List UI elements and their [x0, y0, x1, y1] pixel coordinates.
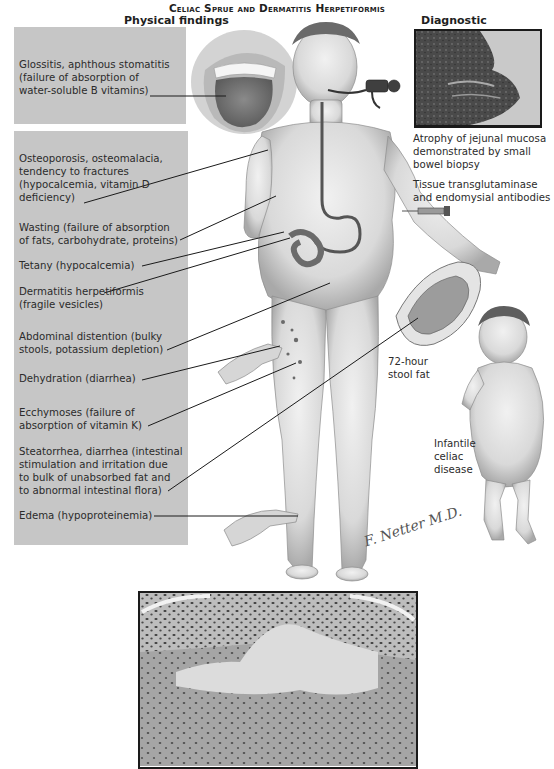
finding-edema: Edema (hypoproteinemia) [19, 509, 152, 522]
skin-biopsy-frame [138, 591, 418, 769]
mouth-tongue-illustration [191, 30, 297, 134]
stool-fat-caption: 72-hour stool fat [388, 355, 430, 381]
finding-ecchymoses: Ecchymoses (failure of absorption of vit… [19, 406, 142, 432]
finding-dermatitis-herpetiformis: Dermatitis herpetiformis (fragile vesicl… [19, 285, 144, 311]
bedpan-illustration [396, 262, 481, 345]
infantile-celiac-caption: Infantile celiac disease [434, 437, 476, 476]
jejunal-biopsy-frame [414, 29, 542, 127]
finding-wasting: Wasting (failure of absorption of fats, … [19, 221, 178, 247]
finding-glossitis: Glossitis, aphthous stomatitis (failure … [19, 58, 170, 97]
finding-abdominal-distention: Abdominal distention (bulky stools, pota… [19, 330, 163, 356]
biopsy-caption: Atrophy of jejunal mucosa demonstrated b… [413, 132, 554, 171]
finding-dehydration: Dehydration (diarrhea) [19, 372, 136, 385]
infant-figure-illustration [462, 306, 544, 544]
finding-tetany: Tetany (hypocalcemia) [19, 259, 134, 272]
antibodies-caption: Tissue transglutaminase and endomysial a… [413, 178, 554, 204]
finding-osteoporosis: Osteoporosis, osteomalacia, tendency to … [19, 152, 163, 204]
diagnostic-heading-rule [414, 126, 542, 128]
finding-steatorrhea: Steatorrhea, diarrhea (intestinal stimul… [19, 445, 183, 497]
